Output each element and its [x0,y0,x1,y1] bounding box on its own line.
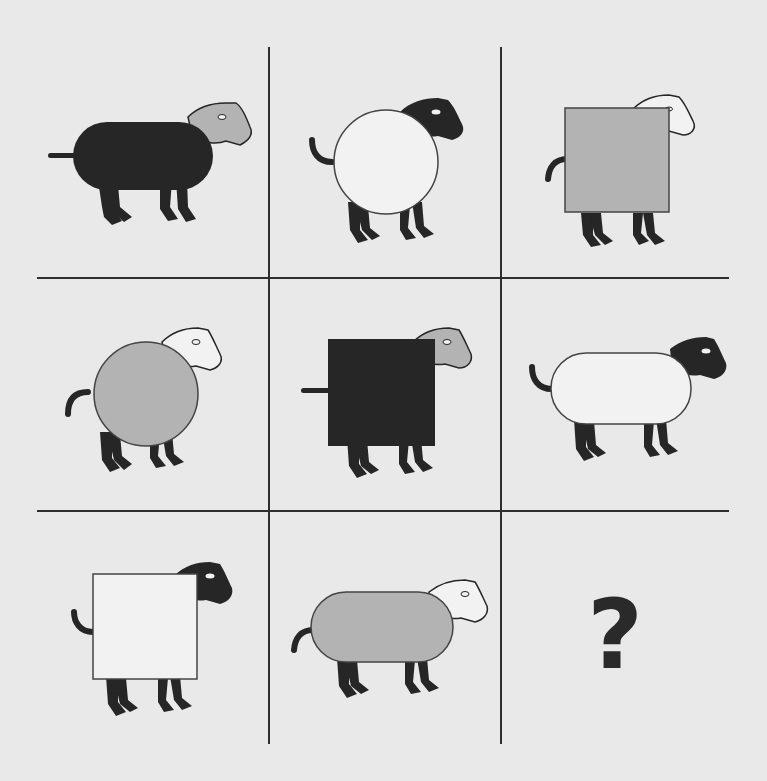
sheep-cell-3 [535,85,705,250]
sheep-body-square [565,108,669,212]
sheep-eye [702,349,711,354]
missing-cell-question-mark: ? [585,585,645,685]
sheep-cell-4 [60,320,230,480]
sheep-legs [574,419,678,461]
sheep-cell-6 [520,335,730,470]
tail-curled [294,630,313,650]
tail-curled [312,140,332,162]
sheep-cell-5 [295,318,475,488]
sheep-eye [206,574,215,579]
sheep-eye [218,115,226,120]
grid-line-vertical-1 [268,47,270,744]
sheep-body-pill [311,592,453,662]
tail-curled [532,367,552,389]
grid-line-vertical-2 [500,47,502,744]
sheep-body-pill [73,122,213,190]
tail-straight [301,388,331,393]
sheep-eye [443,340,451,345]
sheep-cell-7 [60,552,240,722]
sheep-cell-8 [285,570,495,705]
sheep-legs [581,213,665,247]
sheep-cell-1 [40,95,255,235]
sheep-legs [337,658,439,698]
sheep-eye [432,110,441,115]
sheep-eye [192,340,200,345]
sheep-cell-2 [300,90,470,250]
sheep-body-pill [551,353,691,424]
tail-curled [548,159,567,179]
sheep-body-circle [334,110,438,214]
grid-line-horizontal-2 [37,510,729,512]
tail-curled [74,612,93,632]
sheep-eye [461,592,469,597]
tail-curled [68,392,88,414]
sheep-legs [106,676,192,716]
grid-line-horizontal-1 [37,277,729,279]
sheep-body-circle [94,342,198,446]
sheep-body-square [93,574,197,679]
sheep-body-square [328,339,435,446]
